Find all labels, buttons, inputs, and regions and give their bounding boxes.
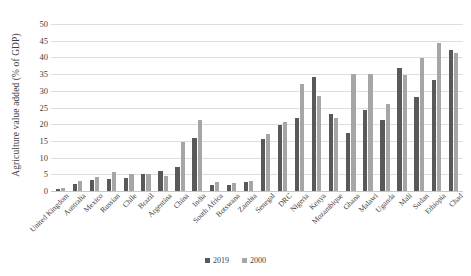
bar-2019 — [244, 182, 248, 191]
bar-2000 — [317, 96, 321, 191]
y-axis-tick-labels: 50454035302520151050 — [26, 24, 48, 191]
legend-item: 2000 — [242, 256, 266, 265]
bar-group — [394, 24, 411, 191]
plot-area — [51, 24, 463, 191]
bar-2019 — [363, 110, 367, 191]
bar-2000 — [215, 182, 219, 191]
bar-2000 — [112, 172, 116, 191]
bar-2019 — [192, 138, 196, 191]
legend-swatch-icon — [205, 258, 210, 263]
bar-2019 — [141, 174, 145, 191]
y-axis-tick: 35 — [40, 70, 49, 79]
bar-groups — [51, 24, 463, 191]
x-axis-tick-label: Chad — [448, 192, 465, 209]
x-axis-tick-label: Chile — [122, 192, 139, 209]
bar-2000 — [300, 84, 304, 191]
bar-2000 — [232, 183, 236, 191]
bar-2019 — [414, 97, 418, 191]
bar-group — [291, 24, 308, 191]
legend-swatch-icon — [242, 258, 247, 263]
bar-2000 — [198, 120, 202, 191]
bar-group — [325, 24, 342, 191]
legend-label: 2000 — [250, 256, 266, 265]
bar-2019 — [312, 77, 316, 191]
bar-2000 — [164, 176, 168, 191]
bar-2000 — [334, 118, 338, 191]
bar-2019 — [107, 179, 111, 191]
legend-item: 2019 — [205, 256, 229, 265]
y-axis-tick: 10 — [40, 153, 49, 162]
bar-group — [376, 24, 393, 191]
bar-2000 — [129, 174, 133, 191]
bar-2019 — [397, 68, 401, 191]
bar-group — [206, 24, 223, 191]
bar-2000 — [351, 74, 355, 191]
bar-group — [154, 24, 171, 191]
bar-2000 — [454, 53, 458, 191]
bar-2000 — [78, 181, 82, 191]
y-axis-tick: 30 — [40, 87, 49, 96]
bar-2019 — [380, 120, 384, 191]
bar-group — [274, 24, 291, 191]
bar-2019 — [210, 185, 214, 191]
bar-2000 — [386, 104, 390, 192]
bar-2019 — [261, 139, 265, 191]
bar-group — [223, 24, 240, 191]
y-axis-title: Agriculture value added (% of GDP) — [11, 15, 21, 195]
bar-2000 — [420, 58, 424, 191]
bar-2019 — [449, 50, 453, 191]
bar-2019 — [56, 189, 60, 191]
bar-2000 — [181, 142, 185, 191]
y-axis-tick: 50 — [40, 20, 49, 29]
bar-group — [308, 24, 325, 191]
bar-2019 — [329, 114, 333, 191]
bar-group — [52, 24, 69, 191]
y-axis-tick: 5 — [44, 170, 48, 179]
bar-2019 — [175, 167, 179, 191]
chart-legend: 20192000 — [0, 256, 471, 265]
bar-2019 — [278, 125, 282, 191]
y-axis-tick: 45 — [40, 36, 49, 45]
bar-group — [257, 24, 274, 191]
x-axis-tick-label: China — [172, 192, 190, 210]
bar-group — [428, 24, 445, 191]
legend-label: 2019 — [213, 256, 229, 265]
bar-2000 — [95, 177, 99, 191]
bar-2000 — [403, 75, 407, 191]
bar-2000 — [283, 122, 287, 191]
bar-2000 — [249, 181, 253, 191]
bar-2019 — [227, 185, 231, 191]
bar-group — [86, 24, 103, 191]
agriculture-value-added-bar-chart: Agriculture value added (% of GDP) 50454… — [0, 0, 471, 276]
bar-2000 — [368, 74, 372, 191]
x-axis-category-labels: United KingdomAustraliaMexicoRussianChil… — [51, 192, 463, 252]
bar-2000 — [266, 134, 270, 191]
bar-group — [103, 24, 120, 191]
bar-2019 — [158, 171, 162, 191]
y-axis-tick: 0 — [44, 187, 48, 196]
bar-group — [342, 24, 359, 191]
bar-group — [137, 24, 154, 191]
y-axis-tick: 25 — [40, 103, 49, 112]
bar-group — [120, 24, 137, 191]
bar-group — [189, 24, 206, 191]
y-axis-tick: 15 — [40, 137, 49, 146]
bar-2019 — [432, 80, 436, 191]
bar-2019 — [124, 178, 128, 191]
bar-group — [240, 24, 257, 191]
bar-group — [69, 24, 86, 191]
bar-2019 — [73, 184, 77, 191]
bar-2000 — [437, 43, 441, 191]
bar-2019 — [346, 133, 350, 191]
bar-group — [411, 24, 428, 191]
bar-2019 — [295, 118, 299, 191]
y-axis-tick: 40 — [40, 53, 49, 62]
bar-group — [359, 24, 376, 191]
bar-group — [172, 24, 189, 191]
bar-2000 — [146, 174, 150, 191]
bar-2019 — [90, 180, 94, 191]
bar-group — [445, 24, 462, 191]
y-axis-tick: 20 — [40, 120, 49, 129]
